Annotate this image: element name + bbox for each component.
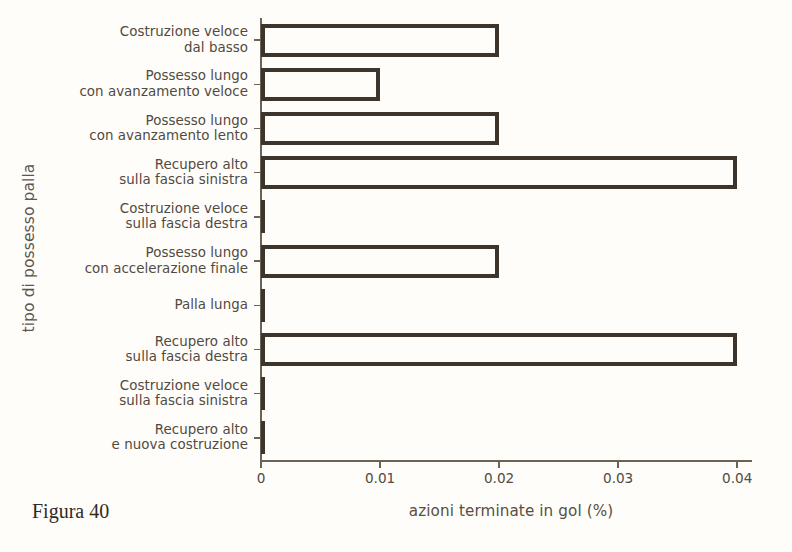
x-axis-tick-label: 0.03 [583, 470, 653, 486]
y-axis-category-label: Possesso lungocon avanzamento veloce [48, 68, 248, 99]
x-axis-line [260, 460, 752, 462]
category-label-line: dal basso [48, 40, 248, 56]
y-axis-category-label: Costruzione velocesulla fascia destra [48, 201, 248, 232]
x-axis-title: azioni terminate in gol (%) [261, 502, 761, 520]
category-label-line: Possesso lungo [146, 68, 248, 83]
category-label-line: Costruzione veloce [120, 378, 248, 393]
category-label-line: sulla fascia destra [48, 349, 248, 365]
bar [261, 377, 266, 410]
category-label-line: Recupero alto [155, 422, 248, 437]
y-axis-category-labels: Costruzione velocedal bassoPossesso lung… [60, 18, 254, 460]
category-label-line: Recupero alto [155, 157, 248, 172]
category-label-line: Palla lunga [174, 297, 248, 312]
category-label-line: Possesso lungo [146, 113, 248, 128]
figure-caption: Figura 40 [32, 500, 109, 523]
category-label-line: sulla fascia sinistra [48, 393, 248, 409]
bar [261, 200, 266, 233]
figure-page: tipo di possesso palla Costruzione veloc… [0, 0, 792, 552]
y-axis-category-label: Recupero altosulla fascia sinistra [48, 157, 248, 188]
x-axis-tick [260, 461, 261, 468]
y-axis-category-label: Recupero altosulla fascia destra [48, 334, 248, 365]
category-label-line: sulla fascia sinistra [48, 172, 248, 188]
category-label-line: Possesso lungo [146, 245, 248, 260]
y-axis-category-label: Costruzione velocesulla fascia sinistra [48, 378, 248, 409]
category-label-line: Costruzione veloce [120, 201, 248, 216]
bar [261, 245, 499, 278]
category-label-line: con avanzamento lento [48, 128, 248, 144]
category-label-line: Costruzione veloce [120, 24, 248, 39]
x-axis-tick-label: 0 [226, 470, 296, 486]
x-axis-tick [736, 461, 737, 468]
x-axis-tick-label: 0.02 [464, 470, 534, 486]
bar [261, 156, 737, 189]
x-axis-tick-label: 0.04 [702, 470, 772, 486]
x-axis-tick [379, 461, 380, 468]
y-axis-category-label: Possesso lungocon accelerazione finale [48, 245, 248, 276]
y-axis-category-label: Palla lunga [48, 297, 248, 313]
bar [261, 24, 499, 57]
category-label-line: e nuova costruzione [48, 437, 248, 453]
bar [261, 333, 737, 366]
bar [261, 68, 380, 101]
category-label-line: sulla fascia destra [48, 216, 248, 232]
y-axis-category-label: Recupero altoe nuova costruzione [48, 422, 248, 453]
category-label-line: Recupero alto [155, 334, 248, 349]
x-axis-tick [617, 461, 618, 468]
bar [261, 421, 266, 454]
category-label-line: con accelerazione finale [48, 261, 248, 277]
y-axis-category-label: Costruzione velocedal basso [48, 24, 248, 55]
x-axis-tick [498, 461, 499, 468]
bar [261, 112, 499, 145]
category-label-line: con avanzamento veloce [48, 84, 248, 100]
plot-area: 00.010.020.030.04 [261, 18, 761, 460]
y-axis-category-label: Possesso lungocon avanzamento lento [48, 113, 248, 144]
x-axis-tick-label: 0.01 [345, 470, 415, 486]
bar [261, 289, 266, 322]
